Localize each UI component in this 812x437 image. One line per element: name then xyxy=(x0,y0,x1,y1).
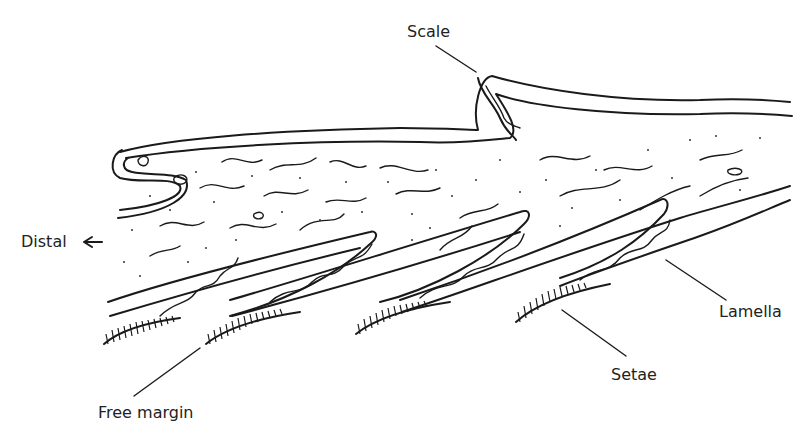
lamella-band-4-lower xyxy=(560,200,790,286)
label-lamella: Lamella xyxy=(719,304,782,320)
distal-tip-loop xyxy=(113,150,181,210)
label-scale: Scale xyxy=(407,24,450,40)
lamella-leader-line xyxy=(666,260,726,300)
lamella-band-1-lower xyxy=(110,248,360,316)
toe-section-drawing xyxy=(0,0,812,437)
lamella-band-1 xyxy=(108,232,376,316)
setae-cluster-4 xyxy=(516,283,610,322)
setae-cluster-1 xyxy=(104,316,180,344)
setae-cluster-2 xyxy=(206,309,300,344)
label-free-margin: Free margin xyxy=(98,405,193,421)
setae-leader-line xyxy=(562,310,626,356)
label-distal: Distal xyxy=(21,234,67,250)
setae-cluster-3 xyxy=(356,301,450,334)
label-setae: Setae xyxy=(611,367,657,383)
scale-fold xyxy=(478,78,516,140)
lamella-band-3-lower xyxy=(402,186,790,312)
distal-arrow-icon xyxy=(84,237,102,247)
dermis-texture xyxy=(138,150,748,256)
scale-leader-line xyxy=(436,46,476,72)
upper-skin-inner xyxy=(126,94,792,158)
diagram: Scale Distal Lamella Setae Free margin xyxy=(0,0,812,437)
free-margin-leader-line xyxy=(134,348,200,396)
